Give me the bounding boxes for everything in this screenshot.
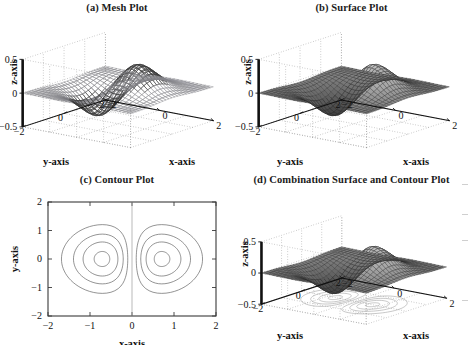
surface-patch (121, 107, 128, 109)
surface-patch (87, 82, 94, 87)
surface-patch (133, 100, 140, 104)
surface-mesh (259, 64, 450, 115)
surface-patch (110, 76, 117, 80)
surface-patch (114, 69, 121, 71)
grid-line (366, 298, 446, 324)
axis-text: 0 (162, 110, 167, 121)
axis-text: 0 (58, 112, 63, 123)
axis-text: 0 (12, 88, 17, 99)
surface-mesh (261, 246, 446, 293)
axis-text: 0 (37, 253, 42, 264)
surface-patch (199, 84, 206, 86)
grid-line (300, 113, 408, 134)
axis-text: −2 (342, 278, 353, 289)
contour-line (365, 303, 379, 307)
axis-text: 0 (248, 88, 253, 99)
grid-line (64, 113, 172, 134)
surface-patch (105, 72, 112, 75)
surface-patch (96, 77, 103, 81)
grid-line (340, 115, 423, 142)
surface-patch (81, 82, 88, 87)
surface-patch (73, 78, 80, 81)
surface-patch (136, 97, 143, 101)
surface-patch (88, 71, 95, 73)
axis-text: x-axis (403, 156, 429, 167)
surface-patch (91, 85, 98, 91)
panel-surface-plot: (b) Surface Plot 0.50−0.520−2−202z-axisy… (234, 2, 469, 174)
axis-text: z-axis (239, 241, 250, 267)
axis-text: x-axis (169, 156, 195, 167)
surface-patch (207, 86, 214, 88)
axis-text: −2 (250, 126, 261, 137)
scan-artifact (462, 240, 468, 241)
surface-patch (128, 107, 135, 109)
axis-text: 2 (336, 277, 341, 288)
surface-patch (90, 77, 97, 81)
axis-text: −2 (253, 303, 264, 314)
surface-patch (203, 85, 210, 87)
grid-line (259, 32, 342, 59)
surface-patch (84, 85, 91, 91)
axis-text: 0 (130, 320, 135, 331)
axis-text: z-axis (8, 59, 19, 85)
surface-patch (115, 70, 122, 72)
axis-text: 2 (37, 196, 42, 207)
axis-text: −2 (43, 320, 54, 331)
panel-a-plot: 0.50−0.520−2−202z-axisy-axisx-axis (0, 2, 234, 174)
surface-patch (95, 71, 102, 73)
axis-text: y-axis (277, 330, 303, 341)
surface-patch (85, 73, 92, 76)
axis-text: −1 (31, 282, 42, 293)
scan-artifact (462, 214, 468, 215)
surface-patch (135, 91, 142, 97)
axis-text: 1 (172, 320, 177, 331)
scan-artifact (462, 300, 468, 301)
panel-d-plot: 0.50−0.520−2−202z-axisy-axisx-axis (234, 174, 469, 345)
surface-patch (118, 69, 125, 71)
surface-patch (107, 78, 114, 82)
axis-text: 0 (397, 288, 402, 299)
axis-text: z-axis (242, 59, 253, 85)
surface-patch (191, 83, 198, 85)
axis-text: 2 (216, 120, 221, 131)
panel-combination-plot: (d) Combination Surface and Contour Plot… (234, 174, 469, 345)
grid-line (104, 115, 187, 142)
surface-patch (112, 72, 119, 74)
surface-patch (98, 86, 105, 92)
panel-mesh-plot: (a) Mesh Plot 0.50−0.520−2−202z-axisy-ax… (0, 2, 234, 174)
surface-patch (103, 76, 110, 80)
axis-text: x-axis (403, 330, 429, 341)
surface-patch (95, 74, 102, 77)
surface-patch (139, 95, 146, 100)
axis-text: −1 (85, 320, 96, 331)
surface-patch (97, 80, 104, 85)
grid-line (23, 32, 106, 59)
surface-patch (93, 78, 100, 82)
surface-patch (89, 74, 96, 77)
axis-text: y-axis (9, 246, 20, 272)
surface-patch (147, 103, 154, 106)
grid-line (261, 304, 366, 324)
surface-patch (144, 105, 151, 108)
surface-patch (104, 80, 111, 85)
surface-patch (87, 78, 94, 82)
surface-patch (129, 97, 136, 101)
panel-c-plot: −2−1012−2−1012x-axisy-axis (0, 174, 234, 345)
surface-patch (143, 98, 150, 102)
surface-patch (124, 105, 131, 108)
axis-text: 2 (99, 99, 104, 110)
surface-patch (101, 83, 108, 89)
surface-patch (83, 77, 90, 80)
surface-patch (110, 68, 117, 70)
surface-patch (132, 94, 139, 99)
surface-patch (122, 98, 129, 102)
surface-patch (99, 75, 106, 78)
axis-text: y-axis (43, 156, 69, 167)
axis-text: −2 (342, 99, 353, 110)
grid-line (340, 293, 420, 319)
surface-patch (138, 89, 145, 95)
surface-patch (117, 106, 124, 108)
surface-patch (113, 74, 120, 77)
scan-artifact (462, 184, 468, 185)
surface-patch (195, 84, 202, 86)
